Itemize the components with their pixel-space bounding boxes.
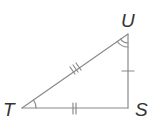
vertex-label-t: T [3, 100, 15, 119]
vertex-label-u: U [121, 11, 135, 30]
tick-marks-tu [70, 63, 81, 74]
vertex-label-s: S [135, 100, 148, 119]
side-tu [22, 34, 128, 108]
angle-arc-t [34, 100, 37, 108]
